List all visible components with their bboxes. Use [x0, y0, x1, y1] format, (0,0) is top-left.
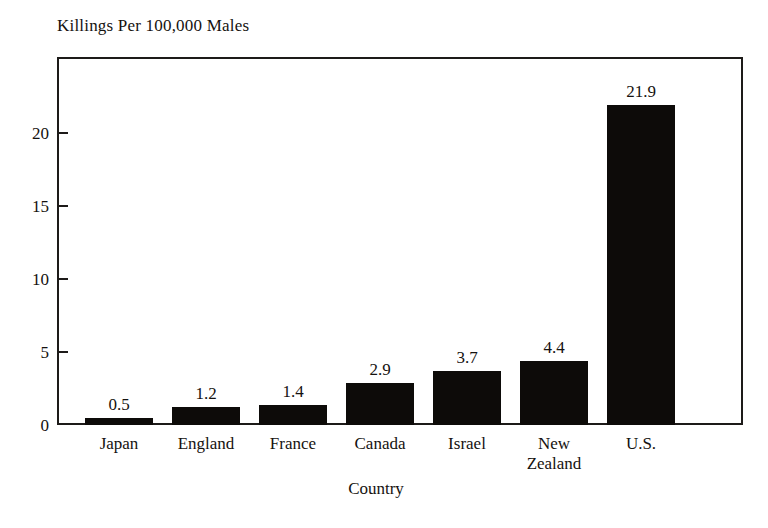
- bar: [259, 405, 327, 425]
- x-axis-category-label: U.S.: [586, 434, 696, 454]
- bar-value-label: 0.5: [69, 396, 169, 414]
- bar-value-label: 2.9: [330, 361, 430, 379]
- bars-layer: 0.5Japan1.2England1.4France2.9Canada3.7I…: [0, 0, 768, 528]
- bar-value-label: 1.4: [243, 383, 343, 401]
- x-axis-title-text: Country: [348, 479, 404, 499]
- x-axis-title: Country: [0, 479, 768, 499]
- bar: [520, 361, 588, 425]
- bar-value-label: 3.7: [417, 349, 517, 367]
- bar-value-label: 1.2: [156, 385, 256, 403]
- bar: [85, 418, 153, 425]
- bar: [607, 105, 675, 425]
- bar-value-label: 21.9: [591, 83, 691, 101]
- bar-value-label: 4.4: [504, 339, 604, 357]
- x-axis-category-label-line: U.S.: [586, 434, 696, 454]
- bar: [346, 383, 414, 425]
- x-axis-category-label-line: Zealand: [499, 454, 609, 474]
- bar: [433, 371, 501, 425]
- chart-page: Killings Per 100,000 Males 05101520 0.5J…: [0, 0, 768, 528]
- bar: [172, 407, 240, 425]
